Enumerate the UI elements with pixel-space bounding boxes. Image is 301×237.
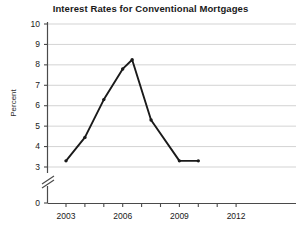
chart-container: Interest Rates for Conventional Mortgage… bbox=[0, 0, 301, 237]
y-tick-label: 10 bbox=[24, 20, 40, 29]
chart-canvas bbox=[0, 0, 301, 237]
x-tick-label: 2006 bbox=[106, 211, 140, 221]
y-tick-label: 5 bbox=[24, 122, 40, 131]
y-tick-label: 3 bbox=[24, 163, 40, 172]
y-tick-label: 6 bbox=[24, 101, 40, 110]
y-tick-label: 0 bbox=[24, 199, 40, 208]
y-tick-label: 9 bbox=[24, 40, 40, 49]
x-tick-label: 2009 bbox=[162, 211, 196, 221]
gridlines-group bbox=[48, 24, 297, 167]
y-tick-label: 4 bbox=[24, 142, 40, 151]
y-axis-break-icon bbox=[42, 173, 54, 188]
y-tick-label: 7 bbox=[24, 81, 40, 90]
data-line-series bbox=[66, 60, 198, 161]
x-tick-label: 2003 bbox=[49, 211, 83, 221]
x-tick-label: 2012 bbox=[219, 211, 253, 221]
y-tick-label: 8 bbox=[24, 60, 40, 69]
